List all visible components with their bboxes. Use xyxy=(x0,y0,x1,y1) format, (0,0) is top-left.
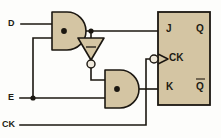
inverter-body xyxy=(78,38,104,60)
logic-circuit-diagram: D E CK J K CK Q Q xyxy=(0,0,221,138)
inverter-gate xyxy=(78,38,104,68)
input-label-d: D xyxy=(8,18,15,28)
inverter-bubble-icon xyxy=(87,60,95,68)
pin-label-j: J xyxy=(166,23,172,34)
and-gate-bottom-symbol-dot xyxy=(114,86,120,92)
input-label-e: E xyxy=(8,92,14,102)
and-gate-bottom-body xyxy=(105,70,139,108)
pin-label-clock: CK xyxy=(169,52,183,63)
junction-e-branch xyxy=(30,95,35,100)
circuit-schematic-canvas xyxy=(0,0,221,138)
wire-e-to-top-and xyxy=(33,38,52,98)
clock-bubble-icon xyxy=(150,55,158,63)
and-gate-bottom xyxy=(105,70,139,108)
wire-inverter-to-bottom-and xyxy=(91,68,105,80)
pin-label-q: Q xyxy=(196,23,204,34)
pin-label-k: K xyxy=(166,81,173,92)
pin-label-q-not: Q xyxy=(196,81,204,92)
junction-and-top-output xyxy=(88,28,93,33)
input-label-ck: CK xyxy=(2,119,15,129)
and-gate-top-symbol-dot xyxy=(61,28,67,34)
